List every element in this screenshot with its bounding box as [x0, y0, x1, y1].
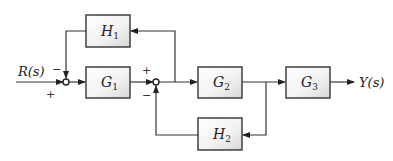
s1-minus-sign: −	[52, 63, 61, 76]
s2-plus-sign: +	[142, 64, 151, 77]
block-g1: G1	[86, 67, 130, 98]
summing-junction-1	[63, 79, 69, 85]
block-diagram: R(s) + − G1 + − H1 G2 H2 G3	[0, 0, 393, 161]
h2-to-s2-line	[156, 86, 198, 135]
s1-plus-sign: +	[46, 88, 55, 101]
block-g3: G3	[286, 67, 330, 98]
summing-junction-2	[153, 79, 159, 85]
s2-minus-sign: −	[142, 89, 151, 102]
h1-feedback-input-line	[131, 31, 175, 82]
h2-feedback-input-line	[243, 82, 266, 135]
input-label: R(s)	[17, 64, 45, 79]
block-g2: G2	[198, 67, 242, 98]
block-h1: H1	[86, 15, 130, 47]
h1-to-s1-line	[66, 31, 86, 78]
output-label: Y(s)	[359, 75, 384, 90]
block-h2: H2	[198, 118, 242, 150]
